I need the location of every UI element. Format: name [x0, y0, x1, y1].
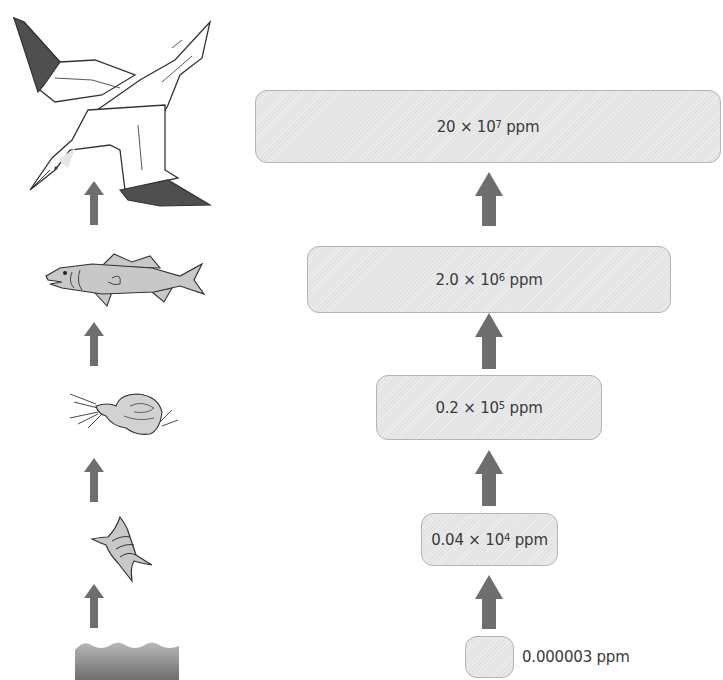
fish-icon [42, 248, 212, 310]
concentration-base: 0.2 × 10 [435, 399, 498, 417]
phytoplankton-icon [90, 515, 160, 585]
concentration-unit: ppm [505, 399, 543, 417]
concentration-label-level-0: 0.000003 ppm [522, 648, 630, 666]
concentration-exponent: 6 [499, 272, 505, 283]
arrow-up-icon [84, 181, 104, 225]
concentration-base: 20 × 10 [437, 118, 496, 136]
concentration-box-level-3: 2.0 × 106 ppm [307, 246, 671, 313]
concentration-box-level-2: 0.2 × 105 ppm [376, 375, 602, 440]
arrow-up-icon [474, 172, 504, 226]
water-icon [75, 640, 179, 680]
concentration-box-level-4: 20 × 107 ppm [255, 90, 721, 163]
concentration-unit: ppm [505, 271, 543, 289]
concentration-box-level-1: 0.04 × 104 ppm [421, 513, 558, 566]
arrow-up-icon [84, 458, 104, 502]
arrow-up-icon [84, 584, 104, 628]
concentration-exponent: 7 [496, 119, 502, 130]
concentration-box-level-0 [465, 636, 514, 678]
arrow-up-icon [474, 450, 504, 506]
arrow-up-icon [84, 322, 104, 366]
concentration-exponent: 4 [504, 532, 510, 543]
concentration-unit: ppm [510, 531, 548, 549]
zooplankton-icon [68, 392, 188, 442]
concentration-base: 0.04 × 10 [431, 531, 504, 549]
arrow-up-icon [474, 313, 504, 369]
arrow-up-icon [474, 575, 504, 629]
concentration-exponent: 5 [499, 400, 505, 411]
concentration-unit: ppm [502, 118, 540, 136]
bird-icon [10, 10, 225, 210]
concentration-base: 2.0 × 10 [435, 271, 498, 289]
